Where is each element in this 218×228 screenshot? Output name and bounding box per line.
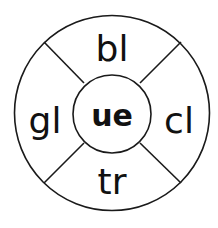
divider-bottom-right xyxy=(140,143,181,183)
divider-top-right xyxy=(140,42,181,83)
segment-bottom-label: tr xyxy=(98,161,127,202)
center-label: ue xyxy=(91,98,133,133)
segment-right-label: cl xyxy=(164,100,194,141)
word-wheel: bl gl cl tr ue xyxy=(0,0,218,228)
divider-bottom-left xyxy=(44,143,84,183)
divider-top-left xyxy=(44,42,84,83)
segment-left-label: gl xyxy=(29,100,62,141)
segment-top-label: bl xyxy=(96,28,129,69)
